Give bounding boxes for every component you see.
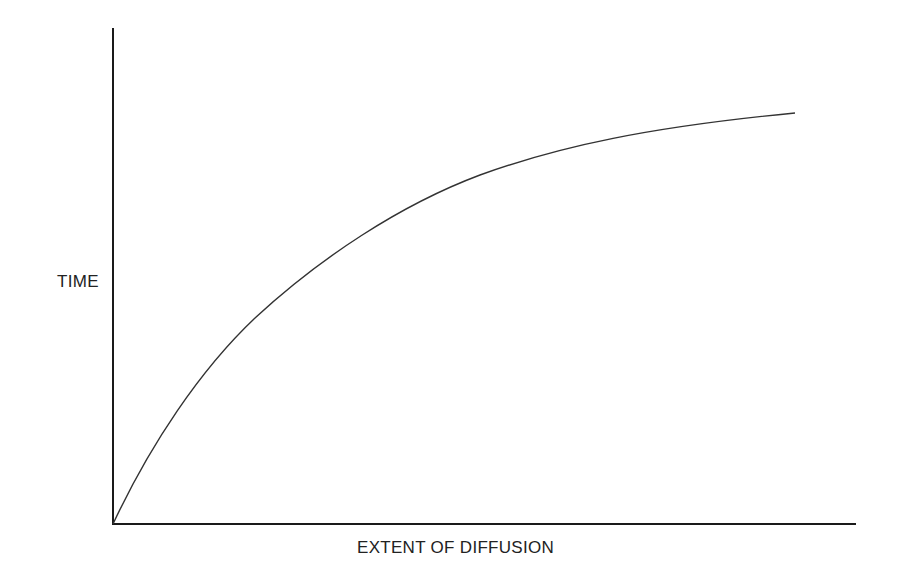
x-axis-label: EXTENT OF DIFFUSION (357, 538, 554, 558)
chart-canvas (0, 0, 900, 573)
diffusion-curve (113, 113, 795, 524)
y-axis-label: TIME (57, 272, 99, 292)
